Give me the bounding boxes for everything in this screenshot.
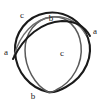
label-b-top: b	[49, 14, 54, 23]
label-a-left: a	[4, 48, 8, 57]
label-a-right: a	[93, 27, 97, 36]
curve-inner-gray	[25, 17, 81, 93]
diagram-canvas: c b a a c b	[0, 0, 106, 106]
label-b-bottom: b	[31, 92, 36, 101]
label-c-center: c	[60, 49, 64, 58]
label-c-top-left: c	[20, 11, 24, 20]
